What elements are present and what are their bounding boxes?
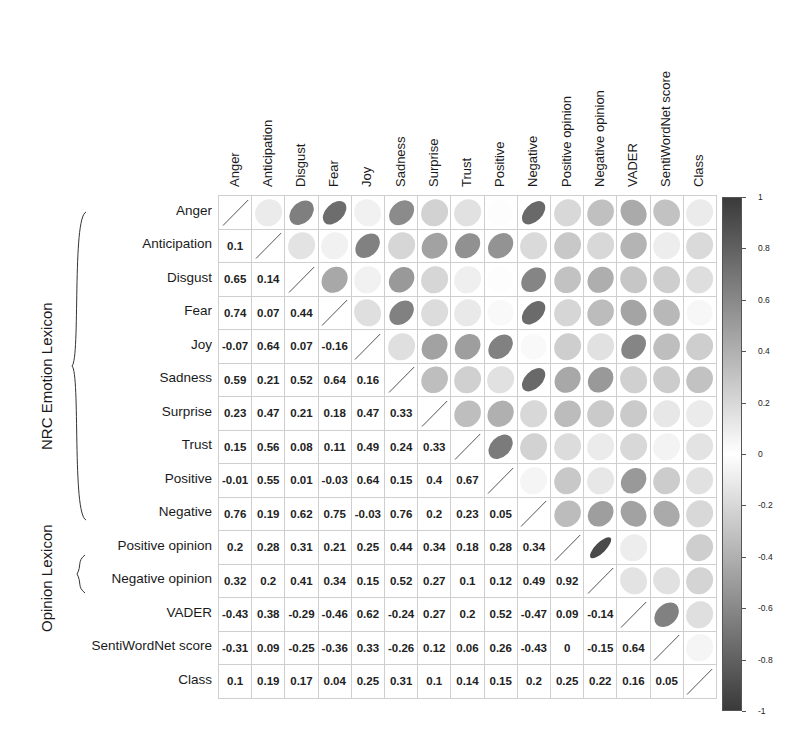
colorbar-tick-mark: [742, 660, 746, 661]
colorbar-gradient: [722, 197, 742, 711]
colorbar-tick-label: 1: [758, 192, 763, 202]
colorbar-tick-label: -1: [758, 706, 766, 716]
colorbar-tick-label: -0.8: [758, 655, 773, 665]
colorbar-tick-label: 0: [758, 449, 763, 459]
colorbar-tick-mark: [742, 711, 746, 712]
colorbar-tick-mark: [742, 505, 746, 506]
colorbar-tick-mark: [742, 454, 746, 455]
colorbar-tick-mark: [742, 248, 746, 249]
group-label-nrc: NRC Emotion Lexicon: [38, 302, 55, 450]
colorbar-tick-mark: [742, 197, 746, 198]
colorbar-tick-label: -0.2: [758, 500, 773, 510]
colorbar-tick-mark: [742, 351, 746, 352]
colorbar-tick-mark: [742, 300, 746, 301]
colorbar-tick-label: 0.6: [758, 295, 770, 305]
correlation-matrix-chart: AngerAnticipationDisgustFearJoySadnessSu…: [0, 0, 810, 746]
colorbar-tick-mark: [742, 403, 746, 404]
colorbar-tick-label: -0.4: [758, 552, 773, 562]
group-label-opinion: Opinion Lexicon: [38, 524, 55, 632]
colorbar-tick-mark: [742, 608, 746, 609]
colorbar-tick-label: -0.6: [758, 603, 773, 613]
colorbar-tick-label: 0.4: [758, 346, 770, 356]
group-brace-icon: [0, 0, 810, 746]
colorbar-tick-mark: [742, 557, 746, 558]
colorbar-tick-label: 0.2: [758, 398, 770, 408]
colorbar-tick-label: 0.8: [758, 243, 770, 253]
